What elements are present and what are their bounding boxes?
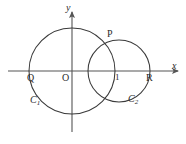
curve-label-c2-letter: C: [128, 93, 135, 104]
x-axis-label: x: [172, 61, 176, 71]
point-label-r: R: [146, 73, 153, 83]
point-label-q: Q: [27, 73, 34, 83]
circle-diagram-figure: y x P Q O 1 R C1 C2: [0, 0, 186, 144]
curve-label-c2: C2: [128, 94, 138, 106]
curve-label-c1: C1: [30, 95, 40, 107]
curve-label-c2-subscript: 2: [135, 98, 139, 106]
x-tick-label-1: 1: [115, 73, 120, 82]
origin-label: O: [62, 73, 69, 83]
curve-label-c1-letter: C: [30, 94, 37, 105]
point-label-p: P: [107, 29, 113, 39]
curve-label-c1-subscript: 1: [37, 99, 41, 107]
y-axis-label: y: [66, 3, 70, 13]
